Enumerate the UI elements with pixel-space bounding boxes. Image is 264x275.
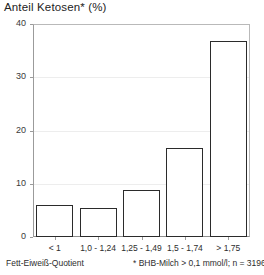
x-tick-label-3: 1,5 - 1,74 xyxy=(167,243,203,253)
bars-layer xyxy=(33,24,250,237)
y-tick-label-30: 30 xyxy=(2,71,26,81)
x-tick-mark-3 xyxy=(185,237,186,240)
x-tick-mark-0 xyxy=(55,237,56,240)
x-axis-title: Fett-Eiweiß-Quotient xyxy=(6,258,84,268)
y-tick-mark-0 xyxy=(30,237,33,238)
x-tick-mark-2 xyxy=(142,237,143,240)
bar-chart: Anteil Ketosen* (%) 010203040 < 11,0 - 1… xyxy=(0,0,264,275)
bar xyxy=(166,148,203,237)
y-tick-label-10: 10 xyxy=(2,178,26,188)
y-tick-label-20: 20 xyxy=(2,125,26,135)
bar xyxy=(36,205,73,237)
x-tick-label-1: 1,0 - 1,24 xyxy=(80,243,116,253)
bar xyxy=(210,41,247,237)
footnote-note: * BHB-Milch > 0,1 mmol/l; n = 3196 xyxy=(133,258,264,268)
x-tick-label-4: > 1,75 xyxy=(216,243,240,253)
bar xyxy=(123,190,160,237)
y-tick-label-40: 40 xyxy=(2,18,26,28)
x-tick-mark-4 xyxy=(228,237,229,240)
x-tick-label-2: 1,25 - 1,49 xyxy=(121,243,162,253)
bar-slot xyxy=(120,24,163,237)
x-tick-label-0: < 1 xyxy=(49,243,61,253)
bar xyxy=(80,208,117,237)
bar-slot xyxy=(33,24,76,237)
bar-slot xyxy=(76,24,119,237)
chart-title: Anteil Ketosen* (%) xyxy=(4,1,107,13)
y-tick-label-0: 0 xyxy=(2,231,26,241)
bar-slot xyxy=(163,24,206,237)
bar-slot xyxy=(207,24,250,237)
x-tick-mark-1 xyxy=(98,237,99,240)
